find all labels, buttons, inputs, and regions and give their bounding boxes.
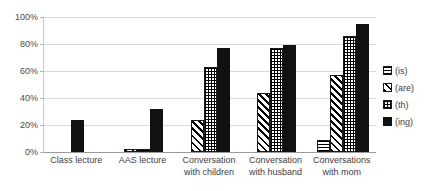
- bar: [137, 149, 150, 152]
- y-tick-label: 40%: [20, 93, 38, 103]
- bar-groups: [44, 17, 376, 152]
- y-tickmark: [40, 152, 44, 153]
- legend-label: (are): [395, 83, 414, 93]
- bar: [191, 120, 204, 152]
- legend-label: (th): [395, 100, 409, 110]
- bar-group: [177, 17, 243, 152]
- bar: [204, 67, 217, 152]
- bar-chart: 0%20%40%60%80%100% Class lectureAAS lect…: [0, 0, 434, 191]
- bar: [150, 109, 163, 152]
- legend-item: (th): [383, 96, 433, 113]
- legend-item: (is): [383, 62, 433, 79]
- chart-legend: (is)(are)(th)(ing): [383, 62, 433, 130]
- solid-black-swatch: [383, 117, 392, 126]
- diagonal-stripes-swatch: [383, 83, 392, 92]
- bar: [270, 48, 283, 152]
- legend-item: (are): [383, 79, 433, 96]
- x-category-label: Class lecture: [43, 155, 109, 178]
- x-category-label: Conversations with mom: [309, 155, 375, 178]
- bar: [71, 120, 84, 152]
- legend-item: (ing): [383, 113, 433, 130]
- y-tick-label: 20%: [20, 120, 38, 130]
- x-category-label: AAS lecture: [109, 155, 175, 178]
- y-axis: 0%20%40%60%80%100%: [0, 0, 40, 191]
- bar: [283, 45, 296, 152]
- y-tick-label: 100%: [15, 12, 38, 22]
- legend-label: (ing): [395, 117, 413, 127]
- crosshatch-swatch: [383, 100, 392, 109]
- bar: [257, 93, 270, 152]
- x-category-label: Conversation with children: [176, 155, 242, 178]
- bar-group: [110, 17, 176, 152]
- y-tick-label: 80%: [20, 39, 38, 49]
- bar: [356, 24, 369, 152]
- y-tick-label: 60%: [20, 66, 38, 76]
- bar: [217, 48, 230, 152]
- bar: [124, 149, 137, 152]
- bar: [343, 36, 356, 152]
- bar-group: [44, 17, 110, 152]
- horizontal-lines-swatch: [383, 66, 392, 75]
- bar: [330, 75, 343, 152]
- legend-label: (is): [395, 66, 408, 76]
- x-category-label: Conversation with husband: [242, 155, 308, 178]
- bar-group: [243, 17, 309, 152]
- bar: [317, 140, 330, 152]
- x-axis: Class lectureAAS lectureConversation wit…: [43, 155, 375, 178]
- y-tick-label: 0%: [25, 147, 38, 157]
- plot-area: [43, 17, 376, 152]
- bar-group: [310, 17, 376, 152]
- gridline: [44, 152, 376, 153]
